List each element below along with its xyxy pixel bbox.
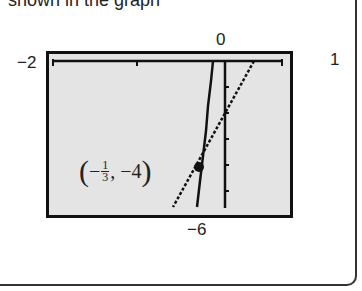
xmax-label: 1 [330, 50, 339, 70]
graph-plot [46, 51, 293, 218]
point-annotation: ( − 13 , −4 ) [79, 158, 152, 184]
intersection-point [194, 162, 204, 172]
xmin-label: −2 [17, 53, 36, 73]
ymax-label: 0 [216, 30, 225, 50]
ymin-label: −6 [187, 220, 206, 240]
